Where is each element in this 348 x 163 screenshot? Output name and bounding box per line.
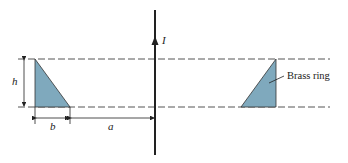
distance-label: a (108, 120, 114, 132)
current-arrow-icon (152, 36, 159, 45)
diagram: I h b a Brass ring (0, 0, 348, 163)
brass-ring-label: Brass ring (287, 70, 330, 81)
current-label: I (162, 34, 166, 46)
width-label: b (50, 120, 56, 132)
ring-cross-section-right (241, 59, 276, 107)
ring-cross-section-left (35, 59, 70, 107)
diagram-graphics (0, 0, 348, 163)
height-label: h (12, 75, 18, 87)
